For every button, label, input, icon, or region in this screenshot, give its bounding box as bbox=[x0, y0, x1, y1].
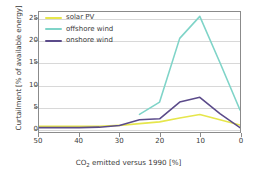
x-axis-label-pre: CO bbox=[76, 158, 87, 167]
legend-swatch-offshore-wind bbox=[45, 28, 62, 30]
x-axis-tick-mark bbox=[160, 133, 161, 137]
chart-figure: Curtailment [% of available energy] 0510… bbox=[0, 0, 257, 173]
x-axis-tick-mark bbox=[119, 133, 120, 137]
x-axis-tick-mark bbox=[241, 133, 242, 137]
legend-item-onshore-wind: onshore wind bbox=[45, 36, 113, 45]
x-axis-label: CO2 emitted versus 1990 [%] bbox=[0, 158, 257, 168]
x-axis-tick-label: 10 bbox=[190, 137, 210, 145]
chart-legend: solar PV offshore wind onshore wind bbox=[45, 13, 113, 45]
x-axis-tick-label: 40 bbox=[69, 137, 89, 145]
x-axis-label-post: emitted versus 1990 [%] bbox=[90, 158, 182, 167]
x-axis-tick-mark bbox=[38, 133, 39, 137]
x-axis-tick-label: 30 bbox=[109, 137, 129, 145]
legend-item-offshore-wind: offshore wind bbox=[45, 25, 113, 34]
x-axis-tick-label: 20 bbox=[150, 137, 170, 145]
x-axis-tick-label: 0 bbox=[231, 137, 251, 145]
legend-swatch-solar-pv bbox=[45, 17, 62, 19]
x-axis-tick-mark bbox=[200, 133, 201, 137]
x-axis-tick-label: 50 bbox=[28, 137, 48, 145]
legend-swatch-onshore-wind bbox=[45, 40, 62, 42]
legend-label-offshore-wind: offshore wind bbox=[66, 25, 113, 34]
legend-item-solar-pv: solar PV bbox=[45, 13, 113, 22]
x-axis-tick-mark bbox=[79, 133, 80, 137]
legend-label-solar-pv: solar PV bbox=[66, 13, 94, 22]
legend-label-onshore-wind: onshore wind bbox=[66, 36, 113, 45]
